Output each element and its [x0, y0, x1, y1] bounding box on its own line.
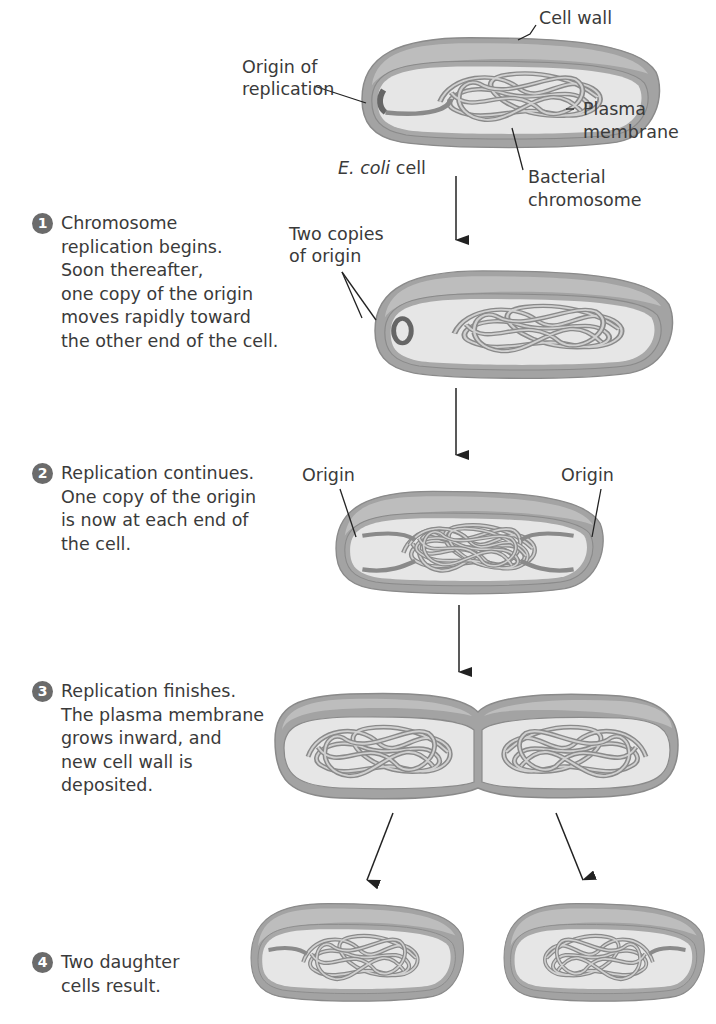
- label-origin-of-replication: Origin of: [242, 57, 317, 79]
- label-membrane: membrane: [583, 122, 679, 144]
- label-two-copies: Two copies: [289, 224, 384, 246]
- label-origin-left: Origin: [302, 465, 355, 487]
- label-origin-right: Origin: [561, 465, 614, 487]
- step-4: 4 Two daughter cells result.: [61, 951, 179, 998]
- label-plasma: Plasma: [583, 99, 646, 121]
- step-1: 1 Chromosome replication begins. Soon th…: [61, 212, 278, 353]
- ecoli-cell-step2: [336, 491, 603, 593]
- step-3: 3 Replication finishes. The plasma membr…: [61, 680, 264, 798]
- arrow-daughter-left: [367, 813, 393, 880]
- step-number-badge: 4: [32, 952, 53, 973]
- step-number-badge: 2: [32, 463, 53, 484]
- step-number-badge: 1: [32, 213, 53, 234]
- daughter-cell-left: [251, 904, 464, 1002]
- ecoli-cell-step1: [375, 271, 673, 378]
- leader-lines-step1: [342, 272, 376, 320]
- arrow-daughter-right: [556, 813, 583, 880]
- step-2: 2 Replication continues. One copy of the…: [61, 462, 256, 556]
- label-of-origin: of origin: [289, 246, 361, 268]
- label-ecoli-cell: E. coli cell: [338, 158, 426, 180]
- ecoli-cell-dividing: [275, 693, 678, 798]
- label-bacterial: Bacterial: [528, 167, 606, 189]
- label-chromosome: chromosome: [528, 190, 642, 212]
- label-cell-wall: Cell wall: [539, 8, 612, 30]
- step-number-badge: 3: [32, 681, 53, 702]
- label-origin-of-replication-2: replication: [242, 79, 334, 101]
- daughter-cell-right: [504, 904, 704, 1002]
